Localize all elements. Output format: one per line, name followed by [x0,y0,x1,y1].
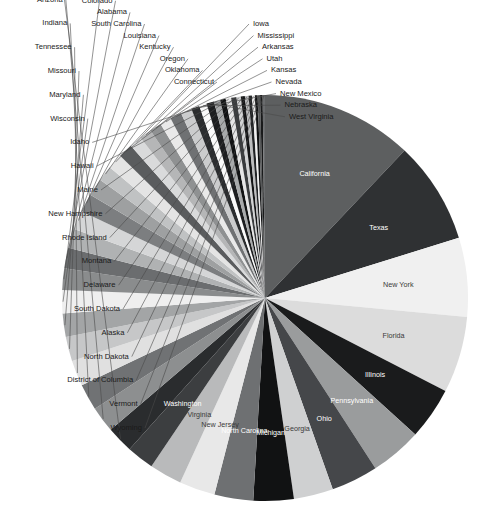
slice-label-inner: Florida [383,331,405,340]
slice-label-outer: South Carolina [91,19,142,28]
slice-label-outer: New Mexico [280,89,321,98]
pie-chart-svg: CaliforniaTexasNew YorkFloridaIllinoisPe… [0,0,477,527]
slice-label-outer: Wisconsin [50,114,85,123]
slice-label-outer: District of Columbia [67,375,134,384]
slice-label-inner: Georgia [284,424,310,433]
slice-label-inner: New York [383,280,414,289]
slice-label-outer: Kansas [271,65,297,74]
slice-label-outer: Alabama [97,7,128,16]
slice-label-outer: Mississippi [258,31,295,40]
slice-label-outer: Montana [82,256,112,265]
slice-label-inner: California [299,169,329,178]
slice-label-outer: Vermont [109,399,138,408]
slice-label-outer: Maryland [49,90,80,99]
slice-label-outer: Alaska [102,328,126,337]
slice-label-inner: Washington [164,399,202,408]
slice-label-inner: Illinois [365,370,385,379]
slice-label-inner: New Jersey [201,420,239,429]
slice-label-outer: Wyoming [110,423,142,432]
slice-label-outer: Utah [267,54,283,63]
slice-label-inner: Ohio [317,414,332,423]
slice-label-outer: New Hampshire [48,209,102,218]
slice-label-outer: Louisiana [123,31,156,40]
slice-label-outer: Connecticut [174,77,215,86]
slice-label-outer: Hawaii [71,161,94,170]
slice-label-outer: Nevada [276,77,303,86]
slice-label-outer: Iowa [253,19,270,28]
slice-label-outer: Oregon [160,54,185,63]
slice-label-outer: Tennessee [35,42,72,51]
slice-label-outer: Oklahoma [165,65,200,74]
slice-label-outer: Nebraska [285,100,318,109]
slice-label-outer: Idaho [70,137,89,146]
pie-slices [62,95,468,501]
slice-label-outer: Arkansas [262,42,294,51]
slice-label-inner: Virginia [187,410,211,419]
slice-label-outer: Missouri [48,66,77,75]
slice-label-outer: Kentucky [139,42,170,51]
slice-label-outer: South Dakota [74,304,121,313]
slice-label-outer: West Virginia [289,112,334,121]
slice-label-inner: Pennsylvania [330,396,373,405]
slice-label-outer: Maine [77,185,98,194]
slice-label-outer: Indiana [42,18,68,27]
slice-label-inner: Texas [369,223,388,232]
slice-label-outer: Delaware [84,280,116,289]
slice-label-outer: Arizona [37,0,64,4]
slice-label-outer: North Dakota [84,352,130,361]
slice-label-outer: Colorado [82,0,113,5]
slice-label-outer: Rhode Island [62,233,107,242]
pie-chart: CaliforniaTexasNew YorkFloridaIllinoisPe… [0,0,477,527]
